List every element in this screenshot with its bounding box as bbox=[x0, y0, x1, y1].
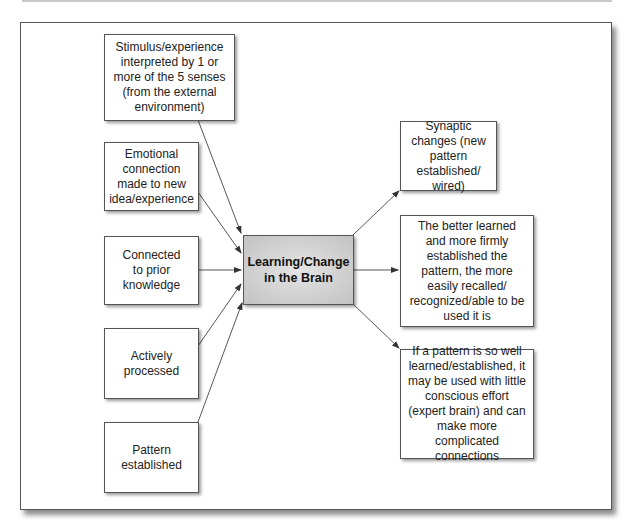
input-label: Stimulus/experience interpreted by 1 or … bbox=[108, 40, 231, 115]
input-box-emotional: Emotional connection made to new idea/ex… bbox=[104, 142, 199, 211]
arrow-output-1 bbox=[353, 191, 399, 235]
input-box-actively-processed: Actively processed bbox=[104, 328, 199, 399]
arrow-input-2 bbox=[198, 192, 241, 253]
output-label: If a pattern is so well learned/establis… bbox=[406, 344, 528, 464]
input-box-stimulus: Stimulus/experience interpreted by 1 or … bbox=[104, 34, 235, 121]
output-box-synaptic: Synaptic changes (new pattern establishe… bbox=[400, 121, 497, 191]
input-label: Actively processed bbox=[119, 349, 184, 379]
arrow-input-1 bbox=[198, 120, 241, 233]
input-box-prior-knowledge: Connected to prior knowledge bbox=[104, 236, 199, 305]
arrow-input-5 bbox=[198, 303, 242, 422]
output-box-expert-brain: If a pattern is so well learned/establis… bbox=[400, 349, 534, 459]
arrow-output-3 bbox=[353, 304, 399, 348]
input-label: Emotional connection made to new idea/ex… bbox=[108, 147, 195, 207]
output-box-better-learned: The better learned and more firmly estab… bbox=[400, 215, 534, 327]
input-label: Connected to prior knowledge bbox=[119, 248, 184, 293]
input-label: Pattern established bbox=[115, 443, 188, 473]
input-box-pattern-established: Pattern established bbox=[104, 422, 199, 493]
center-box-learning: Learning/Change in the Brain bbox=[243, 235, 354, 305]
center-label: Learning/Change in the Brain bbox=[247, 254, 349, 286]
output-label: The better learned and more firmly estab… bbox=[407, 219, 527, 324]
arrow-input-4 bbox=[198, 284, 241, 346]
output-label: Synaptic changes (new pattern establishe… bbox=[403, 119, 494, 194]
